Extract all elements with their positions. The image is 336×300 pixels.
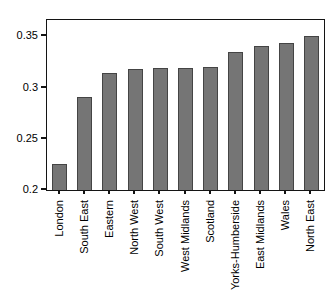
bar-north-east: [304, 36, 319, 190]
x-tick-mark: [234, 191, 236, 194]
x-tick-mark: [209, 191, 211, 194]
plot-area: [46, 19, 325, 191]
x-tick-mark: [284, 191, 286, 194]
y-tick-label: 0.35: [0, 28, 38, 42]
x-tick-mark: [108, 191, 110, 194]
x-tick-label-text: South East: [78, 200, 90, 254]
bar-scotland: [203, 67, 218, 190]
x-tick-label-text: Wales: [279, 200, 291, 230]
x-tick-mark: [58, 191, 60, 194]
x-tick-label-text: Eastern: [103, 200, 115, 238]
y-tick-label: 0.3: [0, 80, 38, 94]
x-tick-label-text: London: [53, 200, 65, 237]
x-tick-label-text: Scotland: [204, 200, 216, 243]
x-tick-mark: [309, 191, 311, 194]
y-tick-label: 0.2: [0, 182, 38, 196]
bar-eastern: [102, 73, 117, 190]
bar-south-west: [153, 68, 168, 190]
x-tick-label-text: East Midlands: [254, 200, 266, 269]
x-tick-mark: [133, 191, 135, 194]
x-tick-mark: [259, 191, 261, 194]
y-tick-label: 0.25: [0, 131, 38, 145]
x-tick-mark: [184, 191, 186, 194]
bar-wales: [279, 43, 294, 190]
x-tick-label-text: West Midlands: [179, 200, 191, 272]
x-tick-label-text: Yorks-Humberside: [229, 200, 241, 290]
x-tick-mark: [83, 191, 85, 194]
x-tick-mark: [158, 191, 160, 194]
bar-north-west: [128, 69, 143, 190]
x-tick-label-text: South West: [153, 200, 165, 257]
bar-south-east: [77, 97, 92, 190]
bar-west-midlands: [178, 68, 193, 190]
bar-east-midlands: [254, 46, 269, 190]
bar-london: [52, 164, 67, 190]
bar-chart-figure: 0.20.250.30.35 LondonSouth EastEasternNo…: [0, 0, 336, 300]
x-tick-label-text: North West: [128, 200, 140, 255]
x-tick-label-text: North East: [304, 200, 316, 252]
bar-yorks-humberside: [228, 52, 243, 190]
